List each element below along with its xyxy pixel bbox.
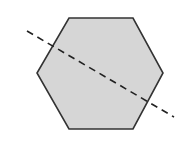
hexagon-diagram <box>0 0 177 147</box>
